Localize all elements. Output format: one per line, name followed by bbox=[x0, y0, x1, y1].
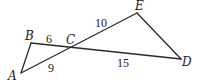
length-label-cd: 15 bbox=[117, 56, 129, 70]
segment-ed bbox=[137, 13, 181, 59]
length-label-ac: 9 bbox=[48, 61, 54, 75]
vertex-label-e: E bbox=[134, 0, 144, 13]
length-label-ce: 10 bbox=[95, 16, 107, 30]
vertex-label-a: A bbox=[7, 69, 17, 82]
geometry-diagram: A B C D E 6 10 9 15 bbox=[0, 0, 199, 82]
vertex-label-c: C bbox=[66, 33, 75, 47]
length-label-bc: 6 bbox=[46, 32, 52, 46]
vertex-label-d: D bbox=[181, 55, 192, 69]
vertex-label-b: B bbox=[24, 29, 34, 43]
